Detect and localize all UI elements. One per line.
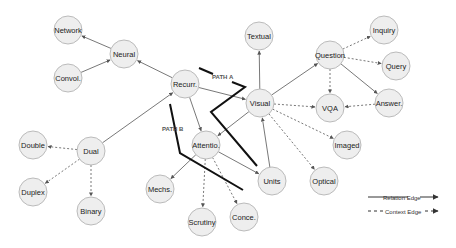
node-label: Binary [80, 207, 102, 216]
node-label: Textual [247, 32, 271, 41]
node-label: Inquiry [373, 26, 396, 35]
node-query[interactable]: Query [382, 52, 410, 80]
path-label-path-b: PATH B [162, 126, 184, 132]
edge-neural-to-network [82, 36, 111, 49]
node-label: Answer. [376, 99, 403, 108]
node-label: Units [263, 177, 280, 186]
edge-visual-to-vqa [274, 104, 315, 107]
node-optical[interactable]: Optical [310, 167, 338, 195]
node-textual[interactable]: Textual [245, 22, 273, 50]
node-label: Attentio. [192, 141, 220, 150]
edge-question-to-answer [341, 64, 378, 94]
node-label: Conce. [232, 213, 256, 222]
node-dual[interactable]: Dual [77, 137, 105, 165]
edge-recurr-to-neural [137, 61, 172, 78]
node-label: Duplex [21, 188, 45, 197]
edge-convol-to-neural [81, 60, 110, 73]
node-label: Question [315, 51, 345, 60]
path-line-path-a [199, 68, 213, 74]
node-inquiry[interactable]: Inquiry [370, 16, 398, 44]
edge-dual-to-recurr [102, 93, 172, 143]
edge-attentio-to-conce [213, 157, 237, 203]
node-label: Network [54, 26, 82, 35]
node-answer[interactable]: Answer. [375, 89, 403, 117]
node-recurr[interactable]: Recurr. [171, 70, 199, 98]
node-binary[interactable]: Binary [77, 197, 105, 225]
edge-question-to-query [344, 57, 381, 63]
node-conce[interactable]: Conce. [230, 203, 258, 231]
edge-visual-to-optical [269, 114, 315, 170]
node-label: VQA [322, 104, 338, 113]
nodes-layer: NetworkNeuralConvol.Recurr.VisualTextual… [19, 16, 410, 236]
edge-attentio-to-mechs [171, 155, 196, 179]
node-label: Double [21, 141, 45, 150]
path-label-path-a: PATH A [212, 74, 234, 80]
node-label: Recurr. [173, 80, 197, 89]
node-neural[interactable]: Neural [110, 40, 138, 68]
node-units[interactable]: Units [258, 167, 286, 195]
legend-relation-label: Relation Edge [383, 195, 421, 201]
node-convol[interactable]: Convol. [54, 64, 82, 92]
node-vqa[interactable]: VQA [316, 94, 344, 122]
edge-recurr-to-visual [199, 87, 246, 99]
node-double[interactable]: Double [19, 131, 47, 159]
edge-answer-to-vqa [345, 104, 375, 107]
edge-dual-to-double [48, 147, 77, 150]
node-scrutiny[interactable]: Scrutiny [188, 208, 216, 236]
legend-context-label: Context Edge [385, 209, 422, 215]
node-label: Scrutiny [188, 218, 215, 227]
legend: Relation Edge Context Edge [368, 195, 438, 215]
edge-visual-to-question [272, 63, 318, 95]
node-network[interactable]: Network [54, 16, 82, 44]
node-label: Query [386, 62, 407, 71]
edge-units-to-visual [262, 118, 270, 167]
node-duplex[interactable]: Duplex [19, 178, 47, 206]
edge-attentio-to-units [218, 152, 259, 174]
node-label: Imaged [334, 141, 359, 150]
node-label: Optical [312, 177, 336, 186]
node-label: Mechs. [148, 185, 172, 194]
node-attentio[interactable]: Attentio. [192, 131, 220, 159]
node-label: Visual [250, 99, 271, 108]
edge-question-to-inquiry [343, 36, 371, 49]
edge-dual-to-duplex [45, 159, 79, 183]
node-imaged[interactable]: Imaged [333, 131, 361, 159]
node-question[interactable]: Question [315, 41, 345, 69]
node-label: Neural [113, 50, 135, 59]
edge-recurr-to-attentio [190, 97, 202, 131]
node-label: Dual [83, 147, 99, 156]
node-mechs[interactable]: Mechs. [146, 175, 174, 203]
edge-visual-to-attentio [218, 112, 249, 136]
node-label: Convol. [55, 74, 80, 83]
knowledge-graph-diagram: PATH APATH B NetworkNeuralConvol.Recurr.… [0, 0, 456, 248]
edge-visual-to-textual [259, 51, 260, 89]
node-visual[interactable]: Visual [246, 89, 274, 117]
